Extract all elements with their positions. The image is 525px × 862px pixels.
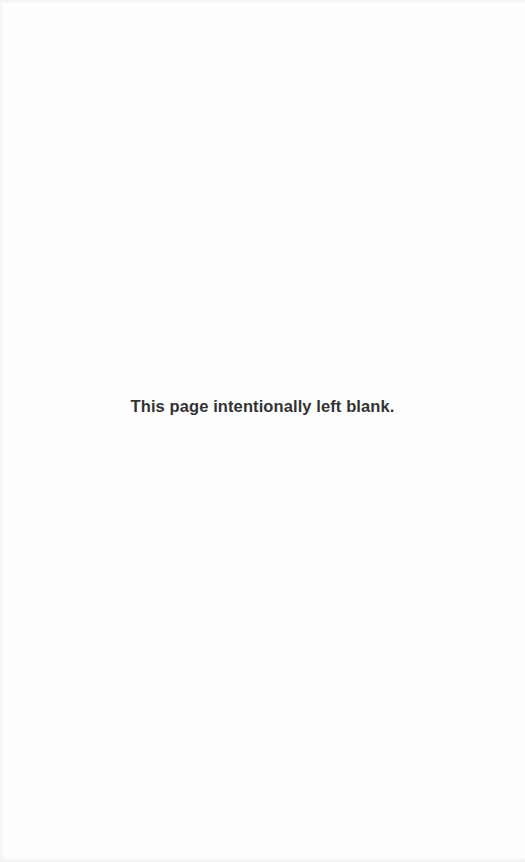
scan-edge-top bbox=[0, 0, 525, 4]
scan-edge-bottom bbox=[0, 856, 525, 862]
scan-edge-left bbox=[0, 0, 3, 862]
document-page: This page intentionally left blank. bbox=[0, 0, 525, 862]
blank-page-notice: This page intentionally left blank. bbox=[0, 397, 525, 416]
